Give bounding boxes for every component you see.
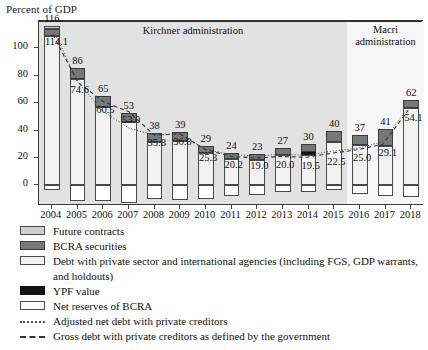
legend-swatch-dashed-icon bbox=[20, 336, 45, 338]
bar-2013[interactable] bbox=[275, 21, 291, 206]
legend-swatch-ypf-icon bbox=[20, 286, 45, 295]
x-tick-label-2005: 2005 bbox=[64, 209, 90, 220]
bar-segment-reserves bbox=[70, 185, 86, 201]
bar-total-label-2004: 116 bbox=[39, 13, 65, 24]
bar-segment-bcra bbox=[326, 131, 342, 142]
bar-total-label-2011: 24 bbox=[219, 140, 245, 151]
x-tick-label-2015: 2015 bbox=[320, 209, 346, 220]
bar-2005[interactable] bbox=[70, 21, 86, 206]
inline-value-label-2006: 60.5 bbox=[96, 104, 114, 115]
bar-segment-reserves bbox=[352, 185, 368, 194]
x-tick-label-2017: 2017 bbox=[372, 209, 398, 220]
bar-2012[interactable] bbox=[249, 21, 265, 206]
bar-2009[interactable] bbox=[172, 21, 188, 206]
legend-item[interactable]: Debt with private sector and internation… bbox=[20, 254, 424, 283]
bar-2011[interactable] bbox=[224, 21, 240, 206]
x-tick-label-2008: 2008 bbox=[141, 209, 167, 220]
y-tick bbox=[34, 157, 38, 158]
y-tick-label: 60 bbox=[4, 95, 28, 106]
bar-segment-bcra bbox=[352, 135, 368, 145]
bar-segment-reserves bbox=[275, 185, 291, 192]
legend-label: Future contracts bbox=[53, 224, 423, 239]
bar-segment-debt bbox=[95, 107, 111, 185]
bar-2017[interactable] bbox=[378, 21, 394, 206]
region-label-macri: Macri administration bbox=[347, 24, 424, 47]
legend-item[interactable]: Adjusted net debt with private creditors bbox=[20, 314, 424, 329]
bar-segment-reserves bbox=[147, 185, 163, 199]
bar-segment-debt bbox=[147, 142, 163, 185]
y-tick bbox=[34, 102, 38, 103]
y-tick-label: 80 bbox=[4, 68, 28, 79]
y-tick bbox=[34, 184, 38, 185]
inline-value-label-2014: 19.5 bbox=[302, 160, 320, 171]
bar-segment-ypf bbox=[301, 152, 317, 155]
bar-total-label-2017: 41 bbox=[373, 116, 399, 127]
bar-segment-reserves bbox=[172, 185, 188, 199]
chart-figure: Percent of GDP Kirchner administrationMa… bbox=[0, 0, 428, 350]
bar-total-label-2012: 23 bbox=[244, 141, 270, 152]
bar-segment-reserves bbox=[224, 185, 240, 196]
bar-segment-reserves bbox=[403, 185, 419, 197]
bar-segment-reserves bbox=[95, 185, 111, 200]
legend-item[interactable]: Net reserves of BCRA bbox=[20, 299, 424, 314]
bar-total-label-2005: 86 bbox=[65, 55, 91, 66]
legend-swatch-dotted-icon bbox=[20, 321, 45, 323]
inline-value-label-2012: 19.0 bbox=[250, 160, 268, 171]
legend-swatch-bcra-icon bbox=[20, 241, 45, 250]
legend-swatch-reserves-icon bbox=[20, 301, 45, 310]
inline-value-label-2010: 25.3 bbox=[199, 152, 217, 163]
bar-segment-debt bbox=[172, 141, 188, 186]
bar-2008[interactable] bbox=[147, 21, 163, 206]
bar-total-label-2009: 39 bbox=[167, 119, 193, 130]
inline-value-label-2004: 114.1 bbox=[45, 36, 68, 47]
x-tick-label-2013: 2013 bbox=[269, 209, 295, 220]
inline-value-label-2015: 22.5 bbox=[327, 156, 345, 167]
region-label-kirchner: Kirchner administration bbox=[39, 25, 347, 37]
zero-baseline bbox=[39, 21, 422, 22]
bar-total-label-2008: 38 bbox=[142, 120, 168, 131]
inline-value-label-2018: 54.1 bbox=[404, 112, 422, 123]
legend-label: YPF value bbox=[53, 284, 423, 299]
bar-segment-reserves bbox=[378, 185, 394, 196]
bar-segment-reserves bbox=[326, 185, 342, 189]
plot-area: Kirchner administrationMacri administrat… bbox=[38, 20, 423, 205]
bar-total-label-2007: 53 bbox=[116, 100, 142, 111]
legend-label: BCRA securities bbox=[53, 239, 423, 254]
bar-2004[interactable] bbox=[44, 21, 60, 206]
legend-label: Adjusted net debt with private creditors bbox=[53, 314, 423, 329]
bar-total-label-2015: 40 bbox=[321, 118, 347, 129]
legend-item[interactable]: YPF value bbox=[20, 284, 424, 299]
bar-segment-bcra bbox=[378, 129, 394, 146]
x-tick-label-2012: 2012 bbox=[243, 209, 269, 220]
bar-2016[interactable] bbox=[352, 21, 368, 206]
bar-2010[interactable] bbox=[198, 21, 214, 206]
bar-2014[interactable] bbox=[301, 21, 317, 206]
y-tick-label: 20 bbox=[4, 150, 28, 161]
inline-value-label-2016: 25.0 bbox=[353, 152, 371, 163]
y-tick bbox=[34, 75, 38, 76]
bar-segment-bcra bbox=[301, 144, 317, 152]
legend-label: Net reserves of BCRA bbox=[53, 299, 423, 314]
bar-segment-bcra bbox=[249, 154, 265, 160]
x-tick-label-2018: 2018 bbox=[397, 209, 423, 220]
bar-2015[interactable] bbox=[326, 21, 342, 206]
bar-total-label-2010: 29 bbox=[193, 133, 219, 144]
legend-item[interactable]: Gross debt with private creditors as def… bbox=[20, 329, 424, 344]
legend-label: Gross debt with private creditors as def… bbox=[53, 329, 423, 344]
legend-item[interactable]: BCRA securities bbox=[20, 239, 424, 254]
x-tick-label-2007: 2007 bbox=[115, 209, 141, 220]
bar-total-label-2013: 27 bbox=[270, 135, 296, 146]
legend-swatch-future-icon bbox=[20, 226, 45, 235]
inline-value-label-2008: 35.8 bbox=[148, 137, 166, 148]
x-tick-label-2016: 2016 bbox=[346, 209, 372, 220]
legend-label: Debt with private sector and internation… bbox=[53, 254, 423, 283]
bar-total-label-2018: 62 bbox=[398, 87, 424, 98]
bar-segment-reserves bbox=[198, 185, 214, 199]
legend-item[interactable]: Future contracts bbox=[20, 224, 424, 239]
inline-value-label-2013: 20.0 bbox=[276, 159, 294, 170]
y-tick-label: 40 bbox=[4, 123, 28, 134]
x-tick-label-2011: 2011 bbox=[218, 209, 244, 220]
bar-segment-reserves bbox=[121, 185, 137, 202]
chart-legend: Future contractsBCRA securitiesDebt with… bbox=[20, 224, 424, 344]
bar-segment-debt bbox=[121, 122, 137, 185]
